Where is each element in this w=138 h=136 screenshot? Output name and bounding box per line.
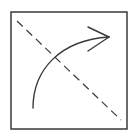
diagram-canvas (0, 0, 138, 136)
curved-arrow-icon (33, 27, 109, 108)
arrow-head-upper (88, 27, 109, 37)
